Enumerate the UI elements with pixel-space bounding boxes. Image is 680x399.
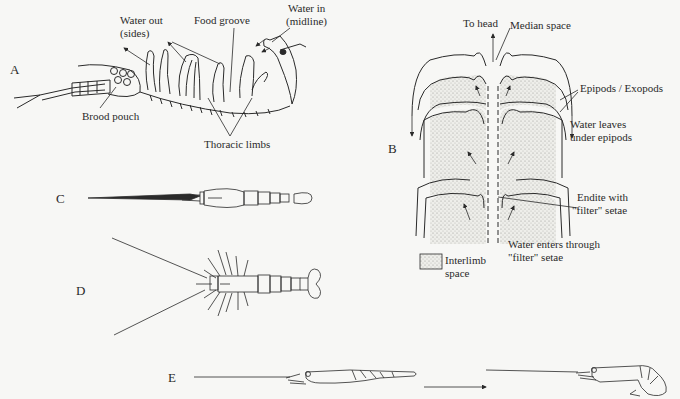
panel-label-c: C (56, 191, 65, 207)
legend-interlimb-2: space (445, 267, 469, 279)
panel-label-a: A (10, 62, 19, 78)
label-food-groove: Food groove (194, 14, 250, 26)
label-endite-1: Endite with (577, 191, 628, 203)
label-median-space: Median space (510, 19, 571, 31)
label-to-head: To head (463, 17, 498, 29)
label-water-out-sides: (sides) (120, 27, 149, 39)
label-brood-pouch: Brood pouch (82, 110, 139, 122)
label-water-leaves-1: Water leaves (570, 118, 626, 130)
legend-interlimb-1: Interlimb (445, 254, 486, 266)
label-epipods-exopods: Epipods / Exopods (580, 82, 663, 94)
panel-label-b: B (388, 141, 397, 157)
label-water-out: Water out (120, 14, 163, 26)
panel-a-branchiopod (14, 36, 306, 117)
panel-e-escape-sequence (194, 366, 666, 396)
label-water-enters-1: Water enters through (508, 238, 600, 250)
panel-d-shrimp-dorsal-antennae (112, 238, 321, 335)
label-water-in: Water in (288, 2, 325, 14)
label-water-enters-2: "filter" setae (508, 251, 563, 263)
label-water-leaves-2: under epipods (570, 131, 632, 143)
panel-label-d: D (76, 283, 85, 299)
label-thoracic-limbs: Thoracic limbs (204, 138, 270, 150)
label-endite-2: "filter" setae (572, 204, 627, 216)
label-water-in-midline: (midline) (286, 15, 327, 27)
panel-label-e: E (168, 370, 176, 386)
panel-b-limb-diagram (412, 53, 572, 244)
panel-c-shrimp-dorsal (88, 189, 312, 208)
